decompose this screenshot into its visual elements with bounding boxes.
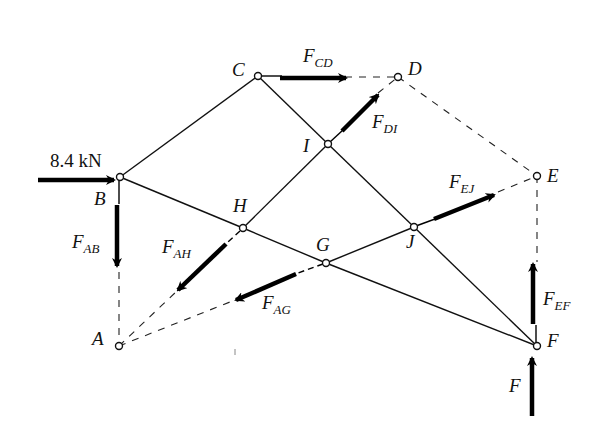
label-e: E [546, 165, 559, 186]
label-d: D [407, 58, 422, 79]
member-hg [243, 228, 326, 263]
force-label-ab: FAB [71, 231, 100, 256]
joints [116, 73, 541, 350]
member-jf [414, 227, 537, 346]
force-label-ah: FAH [161, 236, 192, 261]
reaction-label-f: F [508, 375, 521, 396]
applied-load-label: 8.4 kN [50, 150, 102, 171]
dashed-ej [498, 176, 537, 192]
dashed-de [398, 77, 537, 176]
member-hi [243, 144, 328, 228]
truss-diagram: A B C D E F G H I J 8.4 kN FCD FDI FEJ F… [0, 0, 602, 432]
label-c: C [232, 59, 245, 80]
solid-members [120, 76, 537, 346]
member-bc [120, 76, 258, 177]
member-bh [120, 177, 243, 228]
dashed-ah [119, 290, 178, 346]
joint-c [255, 73, 262, 80]
joint-d [395, 74, 402, 81]
member-ij [328, 144, 414, 227]
dashed-ag [119, 300, 235, 346]
member-gj [326, 227, 414, 263]
joint-g [323, 260, 330, 267]
force-label-cd: FCD [302, 45, 333, 70]
joint-i [325, 141, 332, 148]
joint-j [411, 224, 418, 231]
label-g: G [316, 234, 330, 255]
force-label-di: FDI [371, 111, 398, 136]
label-b: B [94, 188, 106, 209]
force-labels: FCD FDI FEJ FEF FAB FAH FAG F [71, 45, 572, 396]
label-h: H [232, 195, 248, 216]
label-a: A [90, 328, 104, 349]
joint-h [240, 225, 247, 232]
force-label-ej: FEJ [448, 171, 476, 196]
label-j: J [406, 231, 416, 252]
dashed-members [119, 77, 537, 346]
force-label-ef: FEF [542, 288, 572, 313]
joint-a [116, 343, 123, 350]
member-gf [326, 263, 537, 346]
joint-b [117, 174, 124, 181]
force-label-ag: FAG [261, 292, 292, 317]
label-i: I [302, 135, 311, 156]
member-ci [258, 76, 328, 144]
joint-e [534, 173, 541, 180]
joint-f [534, 343, 541, 350]
label-f: F [546, 330, 559, 351]
force-ej-arrow [434, 195, 494, 219]
